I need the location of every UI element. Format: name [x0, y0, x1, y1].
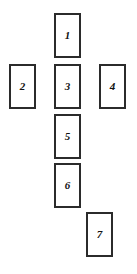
card-2[interactable]: 2 [9, 64, 36, 109]
card-position-number: 5 [65, 131, 71, 142]
card-5[interactable]: 5 [54, 114, 81, 159]
card-position-number: 6 [65, 180, 71, 191]
card-6[interactable]: 6 [54, 163, 81, 208]
card-position-number: 7 [97, 229, 103, 240]
card-7[interactable]: 7 [86, 212, 113, 257]
card-1[interactable]: 1 [54, 13, 81, 58]
card-spread-diagram: 1234567 [0, 0, 137, 274]
card-3[interactable]: 3 [54, 64, 81, 109]
card-position-number: 1 [65, 30, 71, 41]
card-position-number: 4 [110, 81, 116, 92]
card-position-number: 2 [20, 81, 26, 92]
card-4[interactable]: 4 [99, 64, 126, 109]
card-position-number: 3 [65, 81, 71, 92]
